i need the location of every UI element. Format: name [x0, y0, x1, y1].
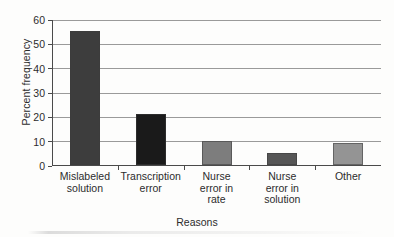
- y-tick-mark-60: [48, 20, 52, 21]
- y-tick-mark-40: [48, 68, 52, 69]
- bar: [70, 31, 100, 165]
- bar: [267, 153, 297, 165]
- y-tick-label-10: 10: [33, 136, 45, 148]
- y-tick-mark-0: [48, 166, 52, 167]
- y-tick-label-20: 20: [33, 111, 45, 123]
- y-tick-mark-10: [48, 141, 52, 142]
- gridline-60: [53, 20, 381, 21]
- x-tick-label: Nurse error in rate: [184, 171, 250, 206]
- x-tick-label: Other: [315, 171, 381, 183]
- y-tick-label-60: 60: [33, 14, 45, 26]
- y-tick-mark-20: [48, 117, 52, 118]
- x-tick-label: Mislabeled solution: [52, 171, 118, 194]
- bar: [333, 143, 363, 165]
- x-tick-mark: [249, 166, 250, 170]
- x-tick-mark: [315, 166, 316, 170]
- bar: [202, 141, 232, 165]
- bar: [136, 114, 166, 165]
- x-tick-label: Nurse error in solution: [249, 171, 315, 206]
- y-tick-mark-30: [48, 93, 52, 94]
- gridline-30: [53, 93, 381, 94]
- y-tick-label-30: 30: [33, 87, 45, 99]
- x-tick-label: Transcription error: [118, 171, 184, 194]
- x-axis-title: Reasons: [0, 216, 394, 228]
- y-tick-label-50: 50: [33, 38, 45, 50]
- plot-area: 0102030405060: [52, 20, 381, 166]
- scan-edge-artifact: [28, 231, 368, 234]
- gridline-50: [53, 44, 381, 45]
- gridline-0: [53, 166, 381, 167]
- x-tick-mark: [118, 166, 119, 170]
- y-tick-label-40: 40: [33, 63, 45, 75]
- x-tick-mark: [184, 166, 185, 170]
- y-tick-mark-50: [48, 44, 52, 45]
- gridline-40: [53, 68, 381, 69]
- bar-chart-figure: Percent frequency 0102030405060 Mislabel…: [0, 0, 394, 237]
- gridline-20: [53, 117, 381, 118]
- y-tick-label-0: 0: [39, 160, 45, 172]
